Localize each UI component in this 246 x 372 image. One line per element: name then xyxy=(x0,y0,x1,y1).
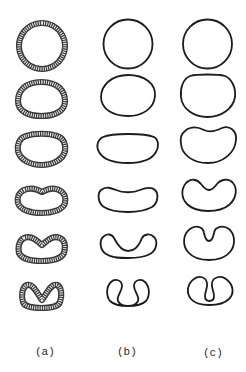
shape-a-stage-5 xyxy=(19,237,65,261)
shape-c-stage-2 xyxy=(181,75,235,118)
shape-c-stage-4 xyxy=(182,180,235,211)
shape-c-stage-1 xyxy=(183,20,232,69)
column-b-shapes xyxy=(97,20,158,307)
shape-c-stage-5 xyxy=(184,227,234,260)
column-label-c: (c) xyxy=(203,347,223,359)
column-a-shapes xyxy=(18,23,66,308)
shape-b-stage-6 xyxy=(107,280,149,306)
shape-a-stage-3 xyxy=(18,134,65,165)
column-c-shapes xyxy=(181,20,236,306)
shape-a-stage-1 xyxy=(19,23,65,69)
shape-b-stage-5 xyxy=(101,234,157,258)
shape-a-stage-2 xyxy=(18,82,65,116)
shape-b-stage-4 xyxy=(99,188,158,212)
shape-b-stage-2 xyxy=(101,75,155,116)
shape-c-stage-6 xyxy=(188,277,233,305)
column-label-a: (a) xyxy=(35,346,55,358)
column-label-b: (b) xyxy=(117,346,137,358)
shape-a-stage-4 xyxy=(18,189,66,213)
invagination-diagram xyxy=(0,0,246,372)
shape-b-stage-3 xyxy=(97,134,158,163)
shape-c-stage-3 xyxy=(181,127,236,163)
shape-a-stage-6 xyxy=(22,285,61,308)
shape-b-stage-1 xyxy=(104,20,153,69)
